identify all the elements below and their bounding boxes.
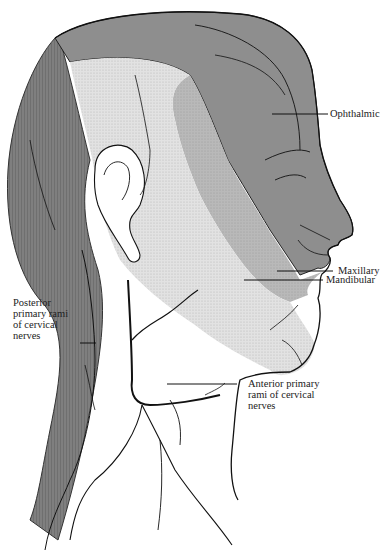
nerve-diagram: Ophthalmic Maxillary Mandibular Posterio… (0, 0, 388, 558)
label-mandibular: Mandibular (326, 274, 375, 285)
label-anterior-rami: Anterior primary rami of cervical nerves (248, 378, 319, 411)
label-posterior-rami: Posterior primary rami of cervical nerve… (13, 297, 68, 341)
label-ophthalmic: Ophthalmic (330, 108, 380, 119)
